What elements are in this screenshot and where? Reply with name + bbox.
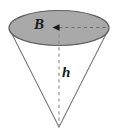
cone-diagram: B h [0, 0, 119, 133]
base-area-label: B [34, 17, 44, 32]
cone-figure-svg [0, 0, 119, 133]
height-label: h [62, 65, 70, 80]
